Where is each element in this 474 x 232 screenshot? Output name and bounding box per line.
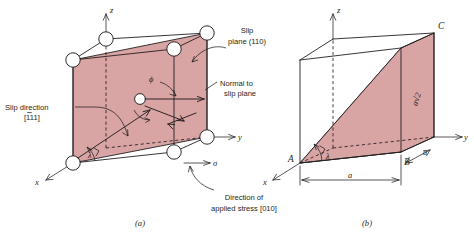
slip-direction-label-line2: [111] [24, 113, 40, 122]
slip-plane-label-line1: Slip [241, 26, 254, 35]
crystallography-figure: z y x [0, 0, 474, 232]
atom-corner [200, 130, 214, 144]
panel-a: z y x [5, 5, 277, 228]
applied-stress-arrow: σ [184, 158, 218, 168]
axis-y-label-a: y [237, 132, 242, 142]
angle-lambda-label-a: λ [87, 151, 92, 160]
axis-z-label-b: z [336, 5, 341, 15]
slip-direction-label-line1: Slip direction [5, 103, 48, 112]
normal-label-line2: slip plane [224, 89, 256, 98]
axis-z-label-a: z [109, 5, 114, 15]
stress-symbol-label: σ [213, 158, 218, 168]
applied-stress-label-line1: Direction of [225, 193, 264, 202]
axis-y-b: y [434, 132, 468, 142]
atom-center-slip-plane [135, 94, 146, 105]
callout-applied-stress: Direction of applied stress [010] [188, 166, 277, 213]
callout-normal-to-slip-plane: Normal to slip plane [205, 79, 256, 98]
figure-svg: z y x [0, 0, 474, 232]
slip-direction-index-group: [111] [24, 113, 40, 122]
applied-stress-label-line2: applied stress [010] [211, 204, 277, 213]
atom-corner [200, 26, 214, 40]
angle-lambda-label-b: λ [325, 152, 330, 161]
slip-plane-label-line2: plane (110) [228, 37, 266, 46]
angle-phi-label: ϕ [149, 75, 154, 84]
bottom-dimension-label: a [348, 171, 352, 180]
panel-b: z y x A B C λ [262, 5, 468, 228]
vertex-label-a: A [287, 154, 294, 164]
atom-corner [99, 32, 113, 46]
axis-y-label-b: y [463, 132, 468, 142]
atom-corner [167, 42, 181, 56]
axis-z-b: z [330, 5, 341, 39]
panel-a-caption: (a) [135, 218, 145, 228]
depth-dimension-label: a [423, 148, 427, 157]
vertex-label-c: C [438, 21, 445, 31]
normal-label-line1: Normal to [220, 79, 253, 88]
depth-dimension-group: a [406, 148, 430, 163]
axis-x-b: x [262, 163, 300, 187]
axis-x-label-b: x [262, 177, 267, 187]
panel-b-caption: (b) [362, 218, 372, 228]
axis-x-label-a: x [34, 177, 39, 187]
atom-corner [167, 145, 181, 159]
atom-corner [66, 53, 80, 67]
